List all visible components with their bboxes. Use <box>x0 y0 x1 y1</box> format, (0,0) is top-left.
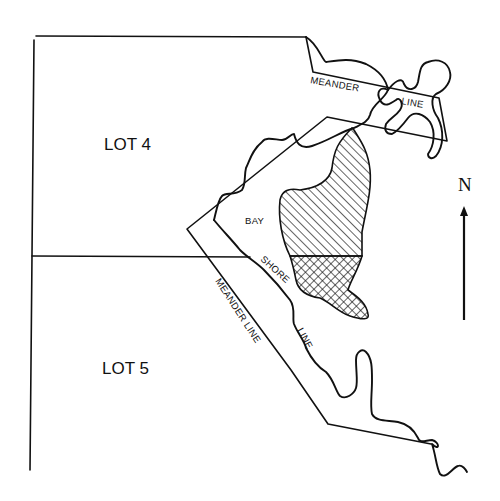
lot-4-label: LOT 4 <box>104 135 151 154</box>
north-arrow-head-icon <box>460 206 468 216</box>
hatched-areas <box>279 128 370 319</box>
bay-label: BAY <box>245 215 265 226</box>
meander-line-label-top: LINE <box>401 95 425 110</box>
meander-line-label-diagonal: MEANDER LINE <box>213 276 263 345</box>
lot-divider-line <box>32 256 250 257</box>
diagonal-hatch-area <box>279 128 370 256</box>
north-arrow: N <box>458 174 472 320</box>
lot-5-label: LOT 5 <box>102 359 149 378</box>
north-boundary-line <box>36 36 306 37</box>
north-label: N <box>458 174 472 195</box>
west-boundary-line <box>30 40 34 470</box>
lot-boundaries <box>30 36 306 470</box>
survey-map: LOT 4 LOT 5 MEANDER LINE MEANDER LINE BA… <box>0 0 500 501</box>
shoreline-loops <box>378 60 450 158</box>
shore-line-label: LINE <box>295 326 315 351</box>
cross-hatch-area <box>290 256 368 319</box>
